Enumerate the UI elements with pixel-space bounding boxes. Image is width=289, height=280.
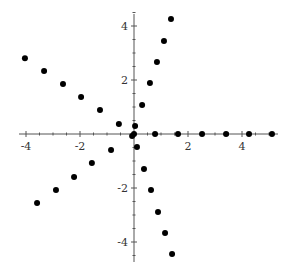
- data-point: [223, 131, 229, 137]
- data-point: [139, 102, 145, 108]
- data-point: [154, 59, 160, 65]
- data-point: [169, 251, 175, 257]
- data-point: [116, 121, 122, 127]
- data-point: [141, 166, 147, 172]
- data-point: [134, 144, 140, 150]
- data-point: [155, 209, 161, 215]
- x-tick-label: -4: [21, 140, 32, 153]
- data-point: [71, 174, 77, 180]
- data-point: [78, 94, 84, 100]
- x-tick-label: 4: [239, 140, 246, 153]
- data-point: [60, 81, 66, 87]
- data-point: [108, 147, 114, 153]
- data-point: [53, 187, 59, 193]
- data-point: [129, 133, 135, 139]
- data-point: [22, 55, 28, 61]
- series-origin-cluster: [129, 131, 137, 139]
- series-ray-lower-left: [34, 147, 114, 206]
- data-point: [148, 187, 154, 193]
- data-point: [175, 131, 181, 137]
- y-tick-label: -2: [117, 182, 128, 195]
- data-point: [132, 123, 138, 129]
- data-points: [22, 16, 275, 257]
- data-point: [34, 200, 40, 206]
- series-ray-upper-left: [22, 55, 122, 127]
- data-point: [199, 131, 205, 137]
- data-point: [168, 16, 174, 22]
- data-point: [246, 131, 252, 137]
- y-tick-label: -4: [117, 236, 128, 249]
- series-ray-upper-right: [132, 16, 174, 129]
- data-point: [269, 131, 275, 137]
- data-point: [147, 80, 153, 86]
- data-point: [162, 230, 168, 236]
- data-point: [152, 131, 158, 137]
- x-tick-label: 2: [185, 140, 192, 153]
- series-ray-lower-right: [134, 144, 175, 257]
- data-point: [97, 107, 103, 113]
- y-tick-label: 2: [121, 74, 128, 87]
- data-point: [161, 38, 167, 44]
- x-tick-label: -2: [75, 140, 86, 153]
- y-tick-label: 4: [121, 20, 128, 33]
- data-point: [89, 160, 95, 166]
- data-point: [41, 68, 47, 74]
- scatter-plot: -4-224 42-2-4: [0, 0, 289, 280]
